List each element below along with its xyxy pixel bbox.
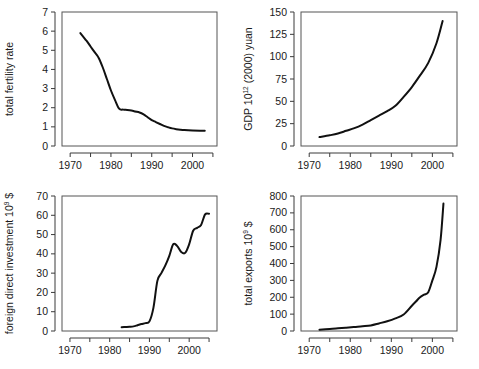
y-tick-label: 20	[36, 286, 48, 298]
y-axis-title: total exports 109 $	[242, 221, 254, 305]
x-axis: 1970198019902000	[58, 338, 209, 356]
y-tick-label: 500	[269, 240, 287, 252]
plot-box	[62, 196, 217, 331]
y-axis-title: foreign direct investment 109 $	[3, 193, 15, 335]
y-tick-label: 600	[269, 223, 287, 235]
y-axis: 0100200300400500600700800	[269, 190, 294, 337]
y-tick-label: 40	[36, 247, 48, 259]
y-axis-title: GDP 1012 (2000) yuan	[242, 27, 254, 131]
y-tick-label: 2	[42, 101, 48, 113]
panel-total-fertility-rate: 012345671970198019902000total fertility …	[0, 0, 239, 184]
y-tick-label: 50	[36, 228, 48, 240]
y-tick-label: 100	[269, 308, 287, 320]
x-tick-label: 1990	[380, 159, 404, 171]
y-tick-label: 7	[42, 6, 48, 18]
y-tick-label: 60	[36, 209, 48, 221]
data-series-line	[80, 33, 204, 131]
x-tick-label: 2000	[421, 159, 445, 171]
x-tick-label: 1970	[298, 159, 322, 171]
x-tick-label: 1980	[339, 344, 363, 356]
y-tick-label: 0	[281, 140, 287, 152]
y-tick-label: 50	[275, 95, 287, 107]
x-tick-label: 1990	[140, 159, 164, 171]
data-series-line	[319, 21, 442, 137]
y-tick-label: 300	[269, 274, 287, 286]
x-tick-label: 2000	[177, 344, 201, 356]
data-series-line	[122, 213, 209, 327]
y-tick-label: 0	[42, 325, 48, 337]
y-tick-label: 700	[269, 206, 287, 218]
x-axis: 1970198019902000	[58, 153, 212, 171]
y-tick-label: 100	[269, 50, 287, 62]
x-tick-label: 1990	[380, 344, 404, 356]
panel-foreign-direct-investment: 0102030405060701970198019902000foreign d…	[0, 184, 239, 369]
y-tick-label: 4	[42, 63, 48, 75]
plot-box	[301, 12, 457, 146]
y-tick-label: 6	[42, 25, 48, 37]
y-tick-label: 5	[42, 44, 48, 56]
x-tick-label: 1980	[99, 159, 123, 171]
multi-panel-figure: 012345671970198019902000total fertility …	[0, 0, 479, 369]
y-axis-title: total fertility rate	[3, 42, 15, 116]
chart-gdp: 02550751001251501970198019902000GDP 1012…	[239, 0, 479, 184]
chart-total-exports: 0100200300400500600700800197019801990200…	[239, 184, 479, 369]
y-tick-label: 1	[42, 120, 48, 132]
y-tick-label: 25	[275, 117, 287, 129]
y-tick-label: 125	[269, 28, 287, 40]
y-axis: 0255075100125150	[269, 6, 294, 152]
x-tick-label: 2000	[181, 159, 205, 171]
panel-total-exports: 0100200300400500600700800197019801990200…	[239, 184, 479, 369]
y-tick-label: 0	[42, 140, 48, 152]
y-tick-label: 200	[269, 291, 287, 303]
panel-gdp: 02550751001251501970198019902000GDP 1012…	[239, 0, 479, 184]
x-tick-label: 1970	[58, 159, 82, 171]
plot-box	[62, 12, 217, 146]
x-tick-label: 2000	[421, 344, 445, 356]
x-axis: 1970198019902000	[298, 153, 453, 171]
x-tick-label: 1980	[339, 159, 363, 171]
y-tick-label: 70	[36, 190, 48, 202]
x-tick-label: 1990	[138, 344, 162, 356]
y-tick-label: 400	[269, 257, 287, 269]
x-tick-label: 1980	[98, 344, 122, 356]
data-series-line	[319, 204, 443, 330]
y-tick-label: 3	[42, 82, 48, 94]
x-axis: 1970198019902000	[298, 338, 453, 356]
plot-box	[301, 196, 457, 331]
y-tick-label: 10	[36, 305, 48, 317]
y-axis: 01234567	[42, 6, 55, 152]
y-tick-label: 800	[269, 190, 287, 202]
y-tick-label: 75	[275, 73, 287, 85]
y-tick-label: 0	[281, 325, 287, 337]
y-axis: 010203040506070	[36, 190, 55, 337]
chart-total-fertility-rate: 012345671970198019902000total fertility …	[0, 0, 239, 184]
y-tick-label: 30	[36, 267, 48, 279]
chart-foreign-direct-investment: 0102030405060701970198019902000foreign d…	[0, 184, 239, 369]
y-tick-label: 150	[269, 6, 287, 18]
x-tick-label: 1970	[298, 344, 322, 356]
x-tick-label: 1970	[58, 344, 82, 356]
